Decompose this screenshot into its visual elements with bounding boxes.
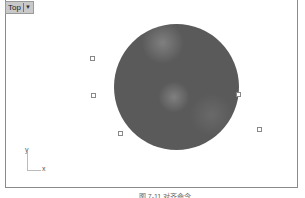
control-point[interactable] xyxy=(118,131,123,136)
axis-y-line xyxy=(27,152,28,170)
axis-x-line xyxy=(27,170,41,171)
viewport-title-tab[interactable]: Top ▼ xyxy=(5,1,34,14)
control-point[interactable] xyxy=(91,93,96,98)
axis-x-label: x xyxy=(42,165,46,172)
viewport-title: Top xyxy=(8,3,21,12)
figure-caption: 图 7-11 对齐命令 xyxy=(110,191,220,198)
axis-y-label: y xyxy=(25,146,29,153)
control-point[interactable] xyxy=(90,56,95,61)
control-point[interactable] xyxy=(257,127,262,132)
control-point[interactable] xyxy=(236,92,241,97)
caret-down-icon[interactable]: ▼ xyxy=(23,3,31,12)
sphere-object[interactable] xyxy=(114,24,239,150)
